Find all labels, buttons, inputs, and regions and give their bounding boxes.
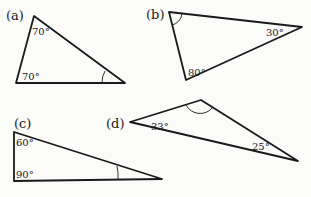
triangle-a: (a) 70° 70° <box>6 8 125 83</box>
unknown-angle-arc-c <box>117 166 118 179</box>
part-label-d: (d) <box>106 116 124 131</box>
part-label-b: (b) <box>146 7 164 22</box>
triangle-b: (b) 80° 30° <box>146 7 302 80</box>
triangle-c-outline <box>14 132 162 181</box>
angle-d-left: 33° <box>151 121 169 132</box>
unknown-angle-arc-b <box>172 14 182 25</box>
triangle-d: (d) 33° 25° <box>106 100 298 161</box>
unknown-angle-arc-d <box>186 105 213 113</box>
part-label-a: (a) <box>6 8 24 23</box>
angle-a-bottom: 70° <box>22 71 40 82</box>
angle-a-top: 70° <box>32 26 50 37</box>
part-label-c: (c) <box>14 116 31 131</box>
triangle-c: (c) 60° 90° <box>14 116 162 181</box>
angle-b-right: 30° <box>266 27 284 38</box>
angle-c-bottom: 90° <box>16 169 34 180</box>
angle-c-top: 60° <box>16 137 34 148</box>
unknown-angle-arc-a <box>102 71 105 83</box>
angle-b-bottom: 80° <box>188 67 206 78</box>
triangles-diagram: (a) 70° 70° (b) 80° 30° (c) 60° 90° (d) … <box>0 0 311 197</box>
angle-d-right: 25° <box>252 141 270 152</box>
